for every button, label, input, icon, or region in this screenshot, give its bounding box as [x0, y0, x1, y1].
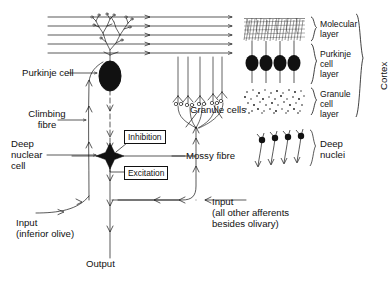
- label-climbing-fibre: Climbing fibre: [17, 108, 77, 130]
- label-inhibition-box: Inhibition: [124, 130, 166, 144]
- label-granule-cell-layer: Granule cell layer: [320, 89, 351, 119]
- label-excitation-box: Excitation: [124, 166, 168, 180]
- label-molecular-layer: Molecular layer: [320, 19, 357, 39]
- label-granule-cells: Granule cells: [190, 104, 246, 115]
- label-cortex: Cortex: [378, 62, 389, 90]
- label-deep-nuclei: Deep nuclei: [320, 138, 345, 160]
- label-purkinje-cell: Purkinje cell: [22, 67, 74, 78]
- label-deep-nuclear-cell: Deep nuclear cell: [11, 138, 42, 172]
- label-output: Output: [86, 258, 115, 269]
- label-purkinje-cell-layer: Purkinje cell layer: [320, 49, 351, 79]
- deep-nuclei-somata: [259, 133, 304, 143]
- label-mossy-fibre: Mossy fibre: [186, 150, 235, 161]
- label-input-other-afferents: Input (all other afferents besides oliva…: [212, 196, 352, 230]
- label-input-inferior-olive: Input (inferior olive): [16, 217, 74, 239]
